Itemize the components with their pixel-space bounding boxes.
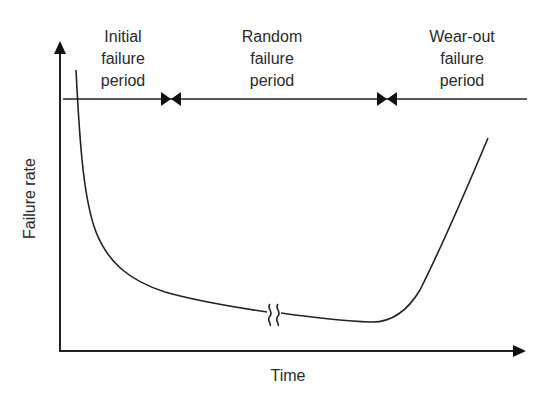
period-label-line: Wear-out <box>412 26 512 48</box>
period-label-wear-out: Wear-out failure period <box>412 26 512 92</box>
axis-break-icon <box>269 304 280 326</box>
period-boundary-marker-1 <box>161 92 181 106</box>
y-axis-label: Failure rate <box>21 159 39 239</box>
period-label-random: Random failure period <box>222 26 322 92</box>
period-label-line: failure <box>78 48 168 70</box>
failure-rate-curve-right <box>281 138 488 322</box>
period-label-line: period <box>78 70 168 92</box>
x-axis-arrow-icon <box>513 345 526 357</box>
period-label-line: failure <box>412 48 512 70</box>
failure-rate-curve-left <box>76 70 267 312</box>
period-label-line: period <box>222 70 322 92</box>
period-label-line: Initial <box>78 26 168 48</box>
period-label-initial: Initial failure period <box>78 26 168 92</box>
period-label-line: period <box>412 70 512 92</box>
y-axis-arrow-icon <box>54 41 66 54</box>
period-label-line: Random <box>222 26 322 48</box>
period-label-line: failure <box>222 48 322 70</box>
period-boundary-marker-2 <box>377 92 397 106</box>
x-axis-label: Time <box>258 365 318 387</box>
